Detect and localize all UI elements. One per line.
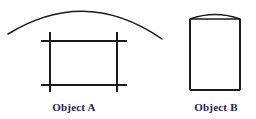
figure-container: Object A Object B: [0, 0, 256, 119]
object-b-label: Object B: [170, 101, 256, 114]
object-a-label: Object A: [28, 101, 120, 114]
